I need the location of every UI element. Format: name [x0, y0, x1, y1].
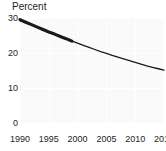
y-tick-label: 20: [0, 49, 18, 58]
x-tick-label: 2010: [125, 134, 145, 144]
series-layer: [20, 18, 164, 123]
y-tick-label: 0: [0, 119, 18, 128]
x-tick-label: 2005: [96, 134, 116, 144]
series-line-observed: [20, 20, 72, 41]
x-tick-label: 1995: [39, 134, 59, 144]
x-tick-label: 2015: [154, 134, 166, 144]
y-tick-label: 30: [0, 14, 18, 23]
series-line-projected: [72, 41, 164, 70]
line-chart: Percent 0102030 199019952000200520102015: [0, 0, 166, 151]
y-tick-label: 10: [0, 84, 18, 93]
x-tick-label: 1990: [10, 134, 30, 144]
x-tick-label: 2000: [68, 134, 88, 144]
plot-area: [20, 18, 164, 123]
y-axis-tick-labels: 0102030: [0, 0, 18, 151]
x-axis-tick-labels: 199019952000200520102015: [0, 134, 166, 147]
